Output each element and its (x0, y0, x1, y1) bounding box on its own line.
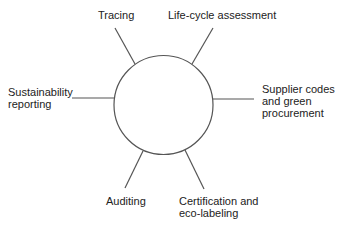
node-label-line: procurement (262, 107, 335, 119)
node-label-line: Tracing (98, 9, 134, 21)
connector-certification (185, 150, 204, 189)
connector-life-cycle-assessment (192, 28, 213, 64)
node-label-line: and green (262, 95, 335, 107)
node-certification: Certification and eco-labeling (179, 195, 259, 219)
node-label-line: Sustainability (8, 86, 73, 98)
node-label-line: Life-cycle assessment (168, 9, 276, 21)
node-label-line: Supplier codes (262, 83, 335, 95)
connector-auditing (125, 151, 143, 188)
node-supplier-codes: Supplier codes and green procurement (262, 83, 335, 119)
connector-tracing (115, 28, 135, 64)
node-auditing: Auditing (106, 195, 146, 207)
center-circle (114, 56, 213, 155)
node-label-line: reporting (8, 98, 73, 110)
node-sustainability-reporting: Sustainability reporting (8, 86, 73, 110)
node-tracing: Tracing (98, 9, 134, 21)
node-label-line: Auditing (106, 195, 146, 207)
node-life-cycle-assessment: Life-cycle assessment (168, 9, 276, 21)
node-label-line: eco-labeling (179, 207, 259, 219)
node-label-line: Certification and (179, 195, 259, 207)
